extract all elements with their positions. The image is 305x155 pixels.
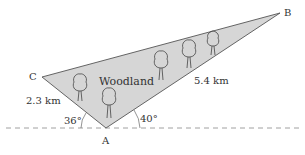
woodland-triangle-diagram: Woodland C B A 2.3 km 5.4 km 36° 40° [0,0,305,155]
vertex-label-c: C [29,71,37,82]
angle-label-left: 36° [64,115,82,126]
side-label-ab: 5.4 km [194,75,229,86]
vertex-label-a: A [101,135,110,146]
side-label-ac: 2.3 km [26,95,61,106]
angle-label-right: 40° [140,113,158,124]
region-label: Woodland [99,75,154,88]
vertex-label-b: B [284,7,291,18]
woodland-triangle [42,13,280,128]
angle-arc-36 [81,113,86,128]
